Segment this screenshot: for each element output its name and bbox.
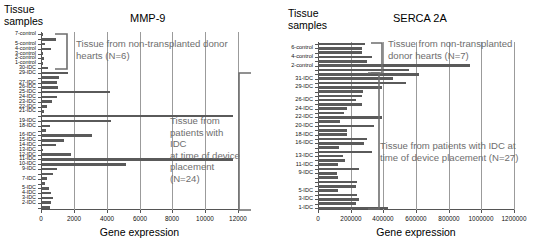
y-tick-mark bbox=[38, 116, 41, 117]
y-tick-label: 5-IDC bbox=[298, 188, 313, 194]
x-tick-label: 800000 bbox=[438, 215, 459, 222]
bar bbox=[41, 163, 126, 166]
bar bbox=[318, 99, 356, 102]
bar bbox=[318, 60, 367, 63]
bar bbox=[318, 112, 344, 115]
x-tick-mark bbox=[481, 210, 482, 213]
y-tick-mark bbox=[38, 193, 41, 194]
bar bbox=[41, 139, 64, 142]
bar bbox=[318, 103, 362, 106]
bar bbox=[41, 201, 51, 204]
y-tick-mark bbox=[38, 78, 41, 79]
y-tick-mark bbox=[315, 195, 318, 196]
y-tick-label: 2-control bbox=[291, 63, 313, 69]
bar bbox=[41, 125, 50, 128]
y-tick-mark bbox=[38, 87, 41, 88]
bar bbox=[318, 125, 374, 128]
y-tick-mark bbox=[38, 63, 41, 64]
y-tick-mark bbox=[315, 83, 318, 84]
y-tick-mark bbox=[38, 140, 41, 141]
y-tick-mark bbox=[38, 150, 41, 151]
bar bbox=[318, 146, 339, 149]
bar bbox=[41, 52, 43, 55]
y-axis-title-mmp9: Tissue samples bbox=[4, 4, 43, 27]
gridline bbox=[514, 42, 515, 210]
y-tick-mark bbox=[38, 44, 41, 45]
x-axis-title-serca2a: Gene expression bbox=[318, 226, 514, 238]
y-tick-mark bbox=[315, 92, 318, 93]
y-tick-label: 29-IDC bbox=[19, 70, 36, 75]
bar bbox=[318, 176, 338, 179]
y-tick-label: 6-control bbox=[291, 46, 313, 52]
y-tick-mark bbox=[315, 126, 318, 127]
y-tick-mark bbox=[315, 135, 318, 136]
bar bbox=[318, 56, 372, 59]
y-tick-mark bbox=[38, 126, 41, 127]
y-tick-mark bbox=[315, 96, 318, 97]
x-tick-label: 8000 bbox=[165, 215, 179, 222]
bar bbox=[318, 142, 364, 145]
bar bbox=[41, 206, 50, 209]
bar bbox=[41, 129, 46, 132]
x-tick-mark bbox=[383, 210, 384, 213]
x-tick-label: 0 bbox=[39, 215, 43, 222]
y-tick-mark bbox=[38, 135, 41, 136]
y-tick-label: 7-IDC bbox=[22, 176, 36, 181]
y-tick-mark bbox=[38, 97, 41, 98]
y-tick-mark bbox=[38, 164, 41, 165]
bar bbox=[318, 202, 356, 205]
y-tick-mark bbox=[38, 68, 41, 69]
y-tick-label: 24-IDC bbox=[295, 106, 313, 112]
y-tick-mark bbox=[38, 34, 41, 35]
y-tick-mark bbox=[38, 111, 41, 112]
bar bbox=[318, 47, 362, 50]
bar bbox=[318, 95, 362, 98]
bar bbox=[318, 64, 470, 67]
x-tick-label: 400000 bbox=[372, 215, 393, 222]
y-tick-mark bbox=[38, 49, 41, 50]
y-tick-mark bbox=[38, 107, 41, 108]
y-tick-mark bbox=[38, 184, 41, 185]
y-tick-mark bbox=[315, 57, 318, 58]
y-tick-label: 26-IDC bbox=[295, 97, 313, 103]
bar bbox=[318, 189, 338, 192]
bracket-control-serca2a bbox=[370, 42, 384, 74]
y-tick-mark bbox=[38, 179, 41, 180]
x-tick-mark bbox=[41, 210, 42, 213]
bar bbox=[318, 107, 347, 110]
y-tick-mark bbox=[315, 70, 318, 71]
y-tick-mark bbox=[315, 44, 318, 45]
y-tick-mark bbox=[38, 208, 41, 209]
bar bbox=[41, 134, 92, 137]
y-tick-mark bbox=[38, 39, 41, 40]
x-tick-mark bbox=[416, 210, 417, 213]
y-tick-label: 7-control bbox=[15, 32, 36, 37]
y-tick-mark bbox=[315, 113, 318, 114]
y-tick-label: 13-IDC bbox=[295, 153, 313, 159]
y-tick-mark bbox=[38, 155, 41, 156]
y-tick-label: 22-IDC bbox=[295, 115, 313, 121]
x-tick-mark bbox=[318, 210, 319, 213]
y-tick-mark bbox=[38, 92, 41, 93]
bar bbox=[318, 51, 362, 54]
bracket-control-mmp9 bbox=[54, 33, 70, 70]
y-tick-mark bbox=[315, 143, 318, 144]
panel-mmp9: Tissue samples MMP-9 0200040006000800010… bbox=[0, 0, 280, 250]
y-tick-label: 21-IDC bbox=[19, 109, 36, 114]
annotation-idc-serca2a: Tissue from patients with IDC at time of… bbox=[380, 140, 546, 163]
y-tick-mark bbox=[315, 48, 318, 49]
bar bbox=[41, 187, 49, 190]
bar bbox=[318, 77, 393, 80]
plot-area-serca2a: 0200000400000600000800000100000012000006… bbox=[318, 42, 514, 210]
bar bbox=[41, 110, 44, 113]
bar bbox=[318, 155, 343, 158]
y-tick-mark bbox=[38, 188, 41, 189]
bar bbox=[41, 105, 47, 108]
bar bbox=[41, 86, 58, 89]
y-tick-label: 11-IDC bbox=[296, 162, 313, 168]
y-tick-mark bbox=[315, 109, 318, 110]
y-tick-mark bbox=[38, 174, 41, 175]
bar bbox=[41, 43, 45, 46]
bar bbox=[318, 138, 367, 141]
y-tick-label: 1-IDC bbox=[298, 205, 313, 211]
